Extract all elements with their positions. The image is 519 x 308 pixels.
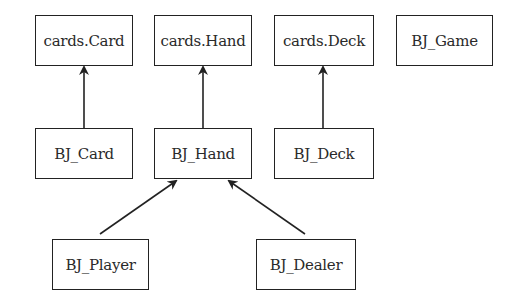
class-box-cards-hand: cards.Hand <box>154 15 252 66</box>
class-label: BJ_Game <box>411 32 477 50</box>
class-label: cards.Deck <box>283 32 365 50</box>
arrow-bj-dealer-to-bj-hand <box>229 181 305 234</box>
class-label: cards.Hand <box>161 32 246 50</box>
arrow-bj-player-to-bj-hand <box>100 181 176 234</box>
class-box-cards-card: cards.Card <box>35 15 133 66</box>
class-label: BJ_Card <box>54 145 114 163</box>
class-label: cards.Card <box>44 32 125 50</box>
class-label: BJ_Player <box>65 256 135 274</box>
class-box-bj-hand: BJ_Hand <box>154 128 252 179</box>
class-label: BJ_Hand <box>171 145 235 163</box>
class-diagram: cards.Card cards.Hand cards.Deck BJ_Game… <box>0 0 519 308</box>
class-label: BJ_Deck <box>294 145 355 163</box>
class-box-bj-card: BJ_Card <box>35 128 133 179</box>
class-box-bj-game: BJ_Game <box>396 15 493 66</box>
class-label: BJ_Dealer <box>270 256 343 274</box>
class-box-bj-dealer: BJ_Dealer <box>256 239 356 290</box>
class-box-bj-player: BJ_Player <box>52 239 149 290</box>
class-box-bj-deck: BJ_Deck <box>274 128 374 179</box>
class-box-cards-deck: cards.Deck <box>274 15 374 66</box>
